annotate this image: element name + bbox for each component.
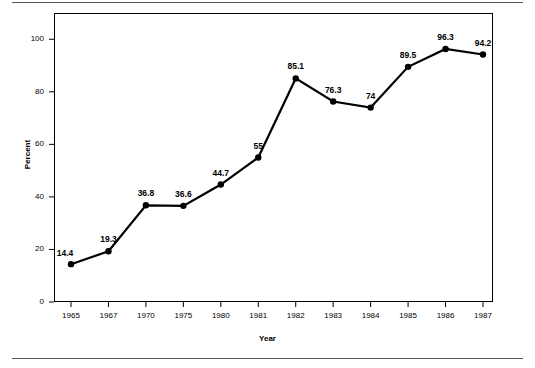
data-point-value-label: 36.6 — [161, 189, 205, 199]
figure-container: 0204060801001965196719701975198019811982… — [0, 0, 535, 368]
data-point-value-label: 55 — [236, 141, 280, 151]
x-tick-label: 1975 — [163, 311, 203, 320]
x-tick-label: 1985 — [388, 311, 428, 320]
y-tick-label: 80 — [12, 87, 44, 96]
x-tick-label: 1980 — [201, 311, 241, 320]
x-tick-label: 1982 — [276, 311, 316, 320]
x-axis-ticks — [71, 302, 483, 307]
y-tick-label: 40 — [12, 192, 44, 201]
x-tick-label: 1967 — [88, 311, 128, 320]
data-point-value-label: 94.2 — [461, 38, 505, 48]
y-tick-label: 0 — [12, 297, 44, 306]
x-tick-label: 1986 — [426, 311, 466, 320]
data-point-value-label: 74 — [349, 91, 393, 101]
x-tick-label: 1983 — [313, 311, 353, 320]
bottom-horizontal-rule — [12, 358, 523, 359]
x-axis-title: Year — [0, 334, 535, 343]
x-tick-label: 1970 — [126, 311, 166, 320]
data-point-value-label: 19.3 — [86, 234, 130, 244]
data-point-value-label: 85.1 — [274, 61, 318, 71]
x-tick-label: 1984 — [351, 311, 391, 320]
y-tick-label: 20 — [12, 244, 44, 253]
y-tick-label: 100 — [12, 34, 44, 43]
x-tick-label: 1965 — [51, 311, 91, 320]
top-horizontal-rule — [12, 2, 523, 3]
data-point-value-label: 89.5 — [386, 50, 430, 60]
y-axis-title: Percent — [23, 125, 32, 185]
data-point-value-label: 44.7 — [199, 168, 243, 178]
data-point-value-label: 14.4 — [43, 248, 87, 258]
x-tick-label: 1987 — [463, 311, 503, 320]
x-tick-label: 1981 — [238, 311, 278, 320]
